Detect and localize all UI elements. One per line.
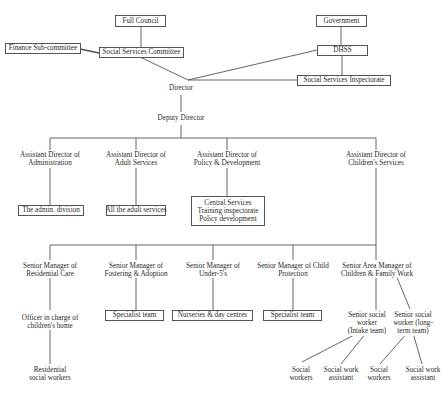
node-director: Director bbox=[161, 84, 201, 92]
node-label: Social Services Inspectorate bbox=[303, 76, 384, 84]
node-social-work-assistant-intake: Social work assistant bbox=[320, 366, 362, 382]
node-social-services-committee: Social Services Committee bbox=[99, 47, 184, 58]
node-label: Full Council bbox=[122, 17, 158, 25]
node-sm-fostering-adoption: Senior Manager of Fostering & Adoption bbox=[98, 262, 174, 278]
node-label-line: worker bbox=[346, 319, 388, 327]
node-label-line: Training inspectorate bbox=[197, 207, 258, 215]
node-label-line: assistant bbox=[320, 374, 362, 382]
node-label-line: Officer in charge of bbox=[15, 314, 85, 322]
node-ad-administration: Assistant Director of Administration bbox=[15, 151, 85, 167]
node-ssw-longterm-team: Senior social worker (long- term team) bbox=[390, 311, 436, 336]
node-ad-adult-services: Assistant Director of Adult Services bbox=[101, 151, 171, 167]
node-label: Government bbox=[324, 17, 360, 25]
node-label-line: children's home bbox=[15, 322, 85, 330]
node-label: Specialist team bbox=[113, 311, 157, 319]
node-sam-children-family-work: Senior Area Manager of Children & Family… bbox=[337, 262, 417, 278]
node-label-line: workers bbox=[361, 374, 397, 382]
node-full-council: Full Council bbox=[115, 15, 166, 27]
node-label-line: Fostering & Adoption bbox=[98, 270, 174, 278]
node-ad-childrens-services: Assistant Director of Children's Service… bbox=[341, 151, 411, 167]
node-finance-subcommittee: Finance Sub-committee bbox=[5, 43, 81, 54]
node-label-line: Social work bbox=[402, 366, 444, 374]
node-label-line: term team) bbox=[390, 327, 436, 335]
node-label: Finance Sub-committee bbox=[9, 44, 77, 52]
node-label-line: Senior social bbox=[390, 311, 436, 319]
node-social-workers-longterm: Social workers bbox=[361, 366, 397, 382]
node-social-services-inspectorate: Social Services Inspectorate bbox=[297, 75, 391, 86]
node-social-work-assistant-longterm: Social work assistant bbox=[402, 366, 444, 382]
node-officer-childrens-home: Officer in charge of children's home bbox=[15, 314, 85, 330]
node-deputy-director: Deputy Director bbox=[151, 114, 211, 122]
node-label-line: worker (long- bbox=[390, 319, 436, 327]
node-sm-residential-care: Senior Manager of Residential Care bbox=[15, 262, 85, 278]
node-label: Deputy Director bbox=[158, 114, 205, 122]
node-label-line: Children's Services bbox=[341, 159, 411, 167]
node-label: Director bbox=[169, 84, 193, 92]
node-label-line: Residential bbox=[20, 366, 80, 374]
node-dhss: DHSS bbox=[317, 45, 368, 56]
node-label: Social Services Committee bbox=[103, 48, 181, 56]
node-label-line: Senior social bbox=[346, 311, 388, 319]
node-label-line: Residential Care bbox=[15, 270, 85, 278]
node-label: The admin. division bbox=[22, 206, 80, 214]
node-ad-policy-development: Assistant Director of Policy & Developme… bbox=[187, 151, 267, 167]
node-label-line: Social bbox=[361, 366, 397, 374]
node-label-line: Assistant Director of bbox=[101, 151, 171, 159]
node-label-line: Senior Area Manager of bbox=[337, 262, 417, 270]
node-label-line: Adult Services bbox=[101, 159, 171, 167]
node-ssw-intake-team: Senior social worker (Intake team) bbox=[346, 311, 388, 336]
node-label-line: Under-5's bbox=[178, 270, 248, 278]
node-label-line: Senior Manager of Child bbox=[255, 262, 331, 270]
node-label-line: Children & Family Work bbox=[337, 270, 417, 278]
node-nurseries-day-centres: Nurseries & day centres bbox=[172, 310, 253, 321]
node-label: DHSS bbox=[333, 46, 351, 54]
node-adult-services: All the adult services bbox=[106, 205, 166, 216]
node-specialist-team-protection: Specialist team bbox=[263, 310, 322, 321]
node-sm-under-5s: Senior Manager of Under-5's bbox=[178, 262, 248, 278]
node-label-line: Senior Manager of bbox=[15, 262, 85, 270]
node-label-line: Administration bbox=[15, 159, 85, 167]
node-label-line: Assistant Director of bbox=[341, 151, 411, 159]
node-label-line: Senior Manager of bbox=[178, 262, 248, 270]
node-label-line: Senior Manager of bbox=[98, 262, 174, 270]
node-label-line: Social work bbox=[320, 366, 362, 374]
node-label-line: Assistant Director of bbox=[15, 151, 85, 159]
node-label-line: Protection bbox=[255, 270, 331, 278]
node-label-line: Assistant Director of bbox=[187, 151, 267, 159]
node-sm-child-protection: Senior Manager of Child Protection bbox=[255, 262, 331, 278]
node-label-line: workers bbox=[283, 374, 319, 382]
node-central-services: Central Services Training inspectorate P… bbox=[191, 196, 265, 226]
node-specialist-team-fostering: Specialist team bbox=[105, 310, 164, 321]
node-label-line: (Intake team) bbox=[346, 327, 388, 335]
node-label: Nurseries & day centres bbox=[178, 311, 247, 319]
node-label-line: social workers bbox=[20, 374, 80, 382]
node-label: All the adult services bbox=[106, 206, 167, 214]
node-label-line: Policy & Development bbox=[187, 159, 267, 167]
node-label-line: assistant bbox=[402, 374, 444, 382]
node-label: Specialist team bbox=[271, 311, 315, 319]
node-label-line: Central Services bbox=[204, 199, 251, 207]
node-label-line: Policy development bbox=[199, 215, 256, 223]
node-residential-social-workers: Residential social workers bbox=[20, 366, 80, 382]
node-government: Government bbox=[316, 15, 367, 27]
node-admin-division: The admin. division bbox=[18, 205, 84, 216]
node-social-workers-intake: Social workers bbox=[283, 366, 319, 382]
node-label-line: Social bbox=[283, 366, 319, 374]
